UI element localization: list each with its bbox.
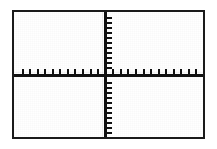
x-axis-tick (22, 69, 24, 74)
y-axis-tick (107, 132, 112, 134)
x-axis-tick (44, 69, 46, 74)
x-axis-tick (59, 69, 61, 74)
x-axis-tick (127, 69, 129, 74)
x-axis-tick (195, 69, 197, 74)
x-axis-tick (97, 69, 99, 74)
x-axis-tick (112, 69, 114, 74)
x-axis-tick (82, 69, 84, 74)
y-axis-tick (107, 27, 112, 29)
calculator-screenshot (0, 0, 217, 149)
y-axis-tick (107, 47, 112, 49)
y-axis-tick (107, 87, 112, 89)
x-axis-tick (165, 69, 167, 74)
y-axis-tick (107, 57, 112, 59)
x-axis-tick (37, 69, 39, 74)
x-axis-tick (52, 69, 54, 74)
x-axis-tick (188, 69, 190, 74)
x-axis-tick (180, 69, 182, 74)
y-axis-tick (107, 102, 112, 104)
x-axis-tick (135, 69, 137, 74)
x-axis-tick (29, 69, 31, 74)
x-axis-tick (90, 69, 92, 74)
y-axis-tick (107, 112, 112, 114)
y-axis-tick-group (107, 12, 112, 137)
x-axis-tick (173, 69, 175, 74)
x-axis-tick (143, 69, 145, 74)
y-axis-tick (107, 17, 112, 19)
y-axis-tick (107, 117, 112, 119)
x-axis-tick (150, 69, 152, 74)
y-axis-tick (107, 62, 112, 64)
calculator-viewport-frame (12, 10, 205, 139)
y-axis-tick (107, 97, 112, 99)
y-axis-tick (107, 42, 112, 44)
x-axis-tick (67, 69, 69, 74)
y-axis-tick (107, 37, 112, 39)
coordinate-plane[interactable] (14, 12, 203, 137)
y-axis-tick (107, 52, 112, 54)
y-axis-tick (107, 122, 112, 124)
x-axis-tick (158, 69, 160, 74)
y-axis-tick (107, 67, 112, 69)
y-axis-tick (107, 107, 112, 109)
y-axis-tick (107, 32, 112, 34)
x-axis-tick (120, 69, 122, 74)
x-axis-tick (74, 69, 76, 74)
y-axis-tick (107, 127, 112, 129)
y-axis-tick (107, 92, 112, 94)
y-axis-tick (107, 22, 112, 24)
y-axis-tick (107, 82, 112, 84)
